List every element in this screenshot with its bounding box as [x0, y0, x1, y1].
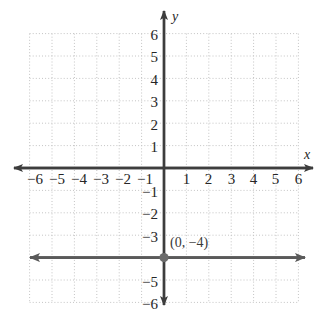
y-tick-label-5: 5	[134, 50, 158, 65]
x-tick-label--3: −3	[87, 172, 109, 187]
coordinate-plane-graph: −6 −5 −4 −3 −2 −1 1 2 3 4 5 6 6 5 4 3 2 …	[0, 0, 325, 314]
y-tick-label--2: −2	[128, 207, 158, 222]
x-tick-label-6: 6	[288, 172, 309, 187]
graph-canvas	[0, 0, 325, 314]
y-tick-label-3: 3	[134, 95, 158, 110]
y-tick-label--5: −5	[128, 275, 158, 290]
x-tick-label-4: 4	[243, 172, 264, 187]
x-tick-label--6: −6	[21, 172, 43, 187]
y-tick-label-2: 2	[134, 118, 158, 133]
y-tick-label--6: −6	[128, 297, 158, 312]
y-tick-label-1: 1	[134, 140, 158, 155]
y-tick-label--1: −1	[128, 185, 158, 200]
point-coordinate-label: (0, −4)	[170, 236, 208, 250]
y-tick-label--3: −3	[128, 230, 158, 245]
x-axis-label: x	[304, 148, 310, 162]
x-tick-label-2: 2	[198, 172, 219, 187]
y-axis-label: y	[172, 10, 178, 24]
x-tick-label-1: 1	[176, 172, 197, 187]
x-tick-label--4: −4	[65, 172, 87, 187]
x-tick-label-5: 5	[265, 172, 286, 187]
x-tick-label--5: −5	[43, 172, 65, 187]
x-tick-label-3: 3	[221, 172, 242, 187]
y-tick-label-4: 4	[134, 73, 158, 88]
y-tick-label-6: 6	[134, 28, 158, 43]
plotted-point-marker	[159, 253, 168, 262]
